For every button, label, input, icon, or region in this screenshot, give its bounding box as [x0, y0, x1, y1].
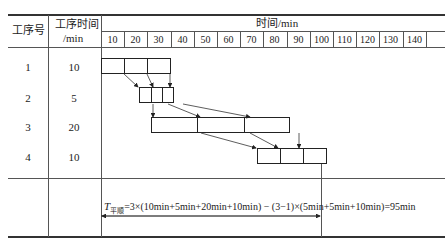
- formula-subscript: 平顺: [110, 207, 124, 215]
- formula-expression: =3×(10min+5min+20min+10min) − (3−1)×(5mi…: [124, 201, 415, 212]
- total-time-formula: T平顺=3×(10min+5min+20min+10min) − (3−1)×(…: [104, 201, 416, 215]
